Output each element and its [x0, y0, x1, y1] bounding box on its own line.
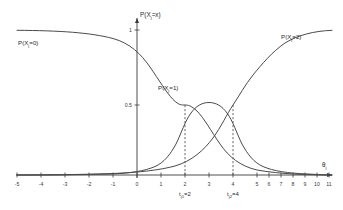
x-tick-label: 11	[326, 181, 331, 187]
curve-category-0	[17, 30, 332, 175]
threshold-label-tj2-tail: =4	[232, 191, 240, 197]
x-tick-label: 8	[292, 181, 295, 187]
x-tick-label: 7	[280, 181, 283, 187]
y-axis-arrowhead	[135, 18, 139, 23]
curve-label-0-main: P(X	[18, 39, 28, 46]
curve-label-0-tail: =0)	[29, 39, 38, 46]
curve-label-category-2: P(Xj=2)	[281, 33, 301, 42]
x-tick-label: 5	[256, 181, 259, 187]
curve-category-2	[17, 30, 332, 175]
svg-text:θj: θj	[322, 161, 327, 170]
curve-label-1-tail: =1)	[169, 84, 178, 91]
y-axis-title-tail: =x)	[152, 11, 161, 19]
x-tick-label: 2	[184, 181, 187, 187]
curve-label-2-main: P(X	[281, 33, 291, 40]
x-tick-label: 1	[160, 181, 163, 187]
threshold-label-tj2: tj2=4	[227, 191, 240, 199]
x-axis-title: θj	[322, 161, 327, 170]
threshold-label-tj1-tail: =2	[184, 191, 192, 197]
curve-label-1-main: P(X	[158, 84, 168, 91]
y-tick-label: 0.5	[125, 102, 132, 108]
x-axis-title-sub: j	[325, 165, 327, 170]
curve-label-category-0: P(Xj=0)	[18, 39, 38, 48]
y-axis-title: P(Xj=x)	[140, 11, 161, 20]
response-curve-plot: -5 -4 -3 -2 -1 0 1 2 3 4 5 6 7 8 9 10 11…	[0, 0, 343, 210]
curve-label-2-tail: =2)	[292, 33, 301, 40]
x-tick-label: -1	[111, 181, 116, 187]
y-tick-label: 1	[129, 27, 132, 33]
x-tick-label: 3	[208, 181, 211, 187]
x-tick-label: 10	[314, 181, 320, 187]
x-tick-label: -4	[39, 181, 44, 187]
x-tick-label: -2	[87, 181, 92, 187]
curve-label-category-1: P(Xj=1)	[158, 84, 178, 93]
svg-text:P(Xj=x): P(Xj=x)	[140, 11, 161, 20]
x-tick-label: 0	[136, 181, 139, 187]
threshold-label-tj1: tj1=2	[179, 191, 192, 199]
x-tick-label: -3	[63, 181, 68, 187]
x-tick-label: 6	[268, 181, 271, 187]
chart-figure: -5 -4 -3 -2 -1 0 1 2 3 4 5 6 7 8 9 10 11…	[0, 0, 343, 210]
curve-category-1	[17, 103, 332, 176]
x-tick-label: 4	[232, 181, 235, 187]
x-tick-label: 9	[304, 181, 307, 187]
x-tick-label: -5	[15, 181, 20, 187]
